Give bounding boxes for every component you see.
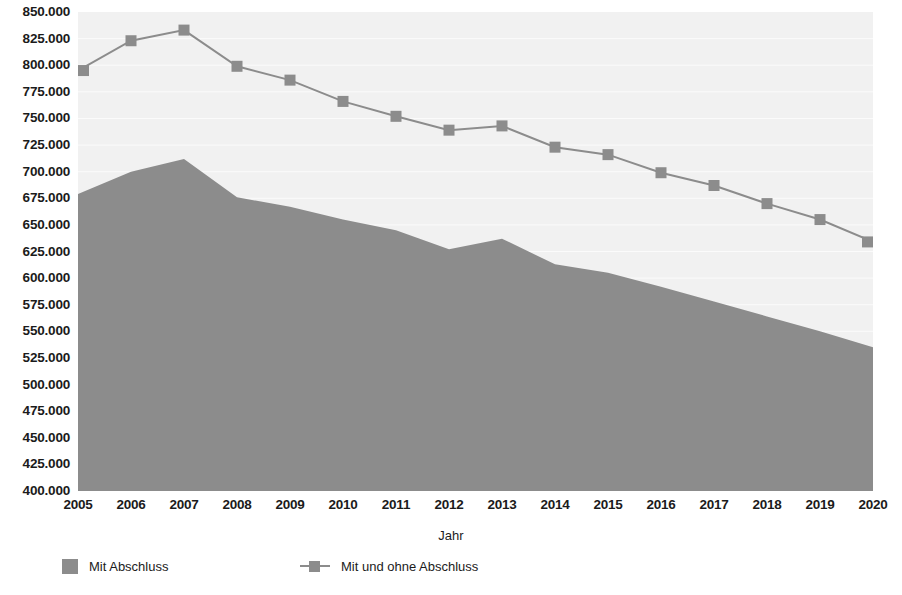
legend-line-marker-swatch-icon xyxy=(300,559,330,573)
data-point-marker xyxy=(709,180,720,191)
y-tick-label: 550.000 xyxy=(23,324,70,338)
y-tick-label: 400.000 xyxy=(23,484,70,498)
y-tick-label: 725.000 xyxy=(23,138,70,152)
y-tick-label: 600.000 xyxy=(23,271,70,285)
data-point-marker xyxy=(444,125,455,136)
legend-item-label: Mit Abschluss xyxy=(89,559,168,574)
y-tick-label: 475.000 xyxy=(23,404,70,418)
x-tick-label: 2015 xyxy=(593,497,622,513)
data-point-marker xyxy=(497,120,508,131)
legend-item-label: Mit und ohne Abschluss xyxy=(341,559,478,574)
data-point-marker xyxy=(126,35,137,46)
data-point-marker xyxy=(338,96,349,107)
x-tick-label: 2011 xyxy=(382,497,411,513)
data-point-marker xyxy=(78,65,89,76)
y-axis: 850.000825.000800.000775.000750.000725.0… xyxy=(0,0,74,503)
chart-legend: Mit Abschluss Mit und ohne Abschluss xyxy=(0,556,902,584)
y-tick-label: 500.000 xyxy=(23,378,70,392)
y-tick-label: 425.000 xyxy=(23,457,70,471)
y-tick-label: 625.000 xyxy=(23,245,70,259)
legend-item-mit-und-ohne-abschluss[interactable]: Mit und ohne Abschluss xyxy=(300,556,478,576)
x-axis: 2005200620072008200920102011201220132014… xyxy=(78,497,873,523)
data-point-marker xyxy=(862,236,873,247)
x-tick-label: 2009 xyxy=(275,497,304,513)
x-tick-label: 2010 xyxy=(328,497,357,513)
data-point-marker xyxy=(285,75,296,86)
x-tick-label: 2019 xyxy=(805,497,834,513)
x-tick-label: 2005 xyxy=(63,497,92,513)
area-series-mit-abschluss xyxy=(78,159,873,491)
data-point-marker xyxy=(391,111,402,122)
y-tick-label: 775.000 xyxy=(23,85,70,99)
chart-figure: 850.000825.000800.000775.000750.000725.0… xyxy=(0,0,902,595)
data-point-marker xyxy=(603,149,614,160)
y-tick-label: 700.000 xyxy=(23,165,70,179)
data-point-marker xyxy=(550,142,561,153)
data-point-marker xyxy=(815,214,826,225)
data-point-marker xyxy=(656,167,667,178)
plot-canvas xyxy=(78,12,873,491)
data-point-marker xyxy=(232,61,243,72)
x-tick-label: 2016 xyxy=(646,497,675,513)
x-tick-label: 2014 xyxy=(540,497,569,513)
x-tick-label: 2018 xyxy=(752,497,781,513)
y-tick-label: 450.000 xyxy=(23,431,70,445)
y-tick-label: 800.000 xyxy=(23,58,70,72)
legend-item-mit-abschluss[interactable]: Mit Abschluss xyxy=(62,556,168,576)
legend-area-swatch-icon xyxy=(62,559,78,574)
x-tick-label: 2006 xyxy=(116,497,145,513)
y-tick-label: 650.000 xyxy=(23,218,70,232)
x-tick-label: 2017 xyxy=(699,497,728,513)
x-tick-label: 2020 xyxy=(858,497,887,513)
x-tick-label: 2007 xyxy=(169,497,198,513)
y-tick-label: 675.000 xyxy=(23,191,70,205)
plot-area xyxy=(78,12,873,491)
x-axis-title: Jahr xyxy=(0,528,902,544)
y-tick-label: 850.000 xyxy=(23,5,70,19)
x-tick-label: 2012 xyxy=(434,497,463,513)
data-point-marker xyxy=(179,25,190,36)
y-tick-label: 575.000 xyxy=(23,298,70,312)
data-point-marker xyxy=(762,198,773,209)
y-tick-label: 825.000 xyxy=(23,32,70,46)
y-tick-label: 750.000 xyxy=(23,111,70,125)
y-tick-label: 525.000 xyxy=(23,351,70,365)
x-tick-label: 2008 xyxy=(222,497,251,513)
x-tick-label: 2013 xyxy=(487,497,516,513)
